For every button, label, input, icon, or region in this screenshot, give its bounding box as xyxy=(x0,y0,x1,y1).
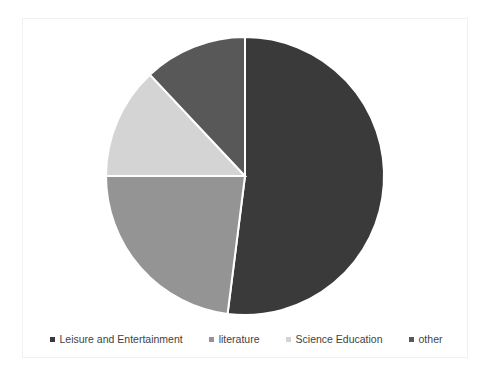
pie-slice-group xyxy=(106,37,384,315)
legend-item-label: other xyxy=(419,334,443,345)
pie-chart-svg xyxy=(23,19,469,319)
pie-chart-card: Leisure and EntertainmentliteratureScien… xyxy=(22,18,468,358)
legend-item[interactable]: other xyxy=(409,334,443,345)
legend-swatch-icon xyxy=(50,337,55,342)
pie-slice xyxy=(228,37,384,315)
legend-item-label: Science Education xyxy=(296,334,383,345)
chart-legend: Leisure and EntertainmentliteratureScien… xyxy=(23,319,469,359)
legend-swatch-icon xyxy=(209,337,214,342)
legend-item-label: literature xyxy=(219,334,260,345)
pie-slice xyxy=(106,176,245,314)
legend-item[interactable]: Science Education xyxy=(286,334,383,345)
legend-swatch-icon xyxy=(286,337,291,342)
pie-plot-area xyxy=(23,19,469,319)
legend-swatch-icon xyxy=(409,337,414,342)
legend-item-label: Leisure and Entertainment xyxy=(60,334,183,345)
legend-item[interactable]: literature xyxy=(209,334,260,345)
legend-item[interactable]: Leisure and Entertainment xyxy=(50,334,183,345)
